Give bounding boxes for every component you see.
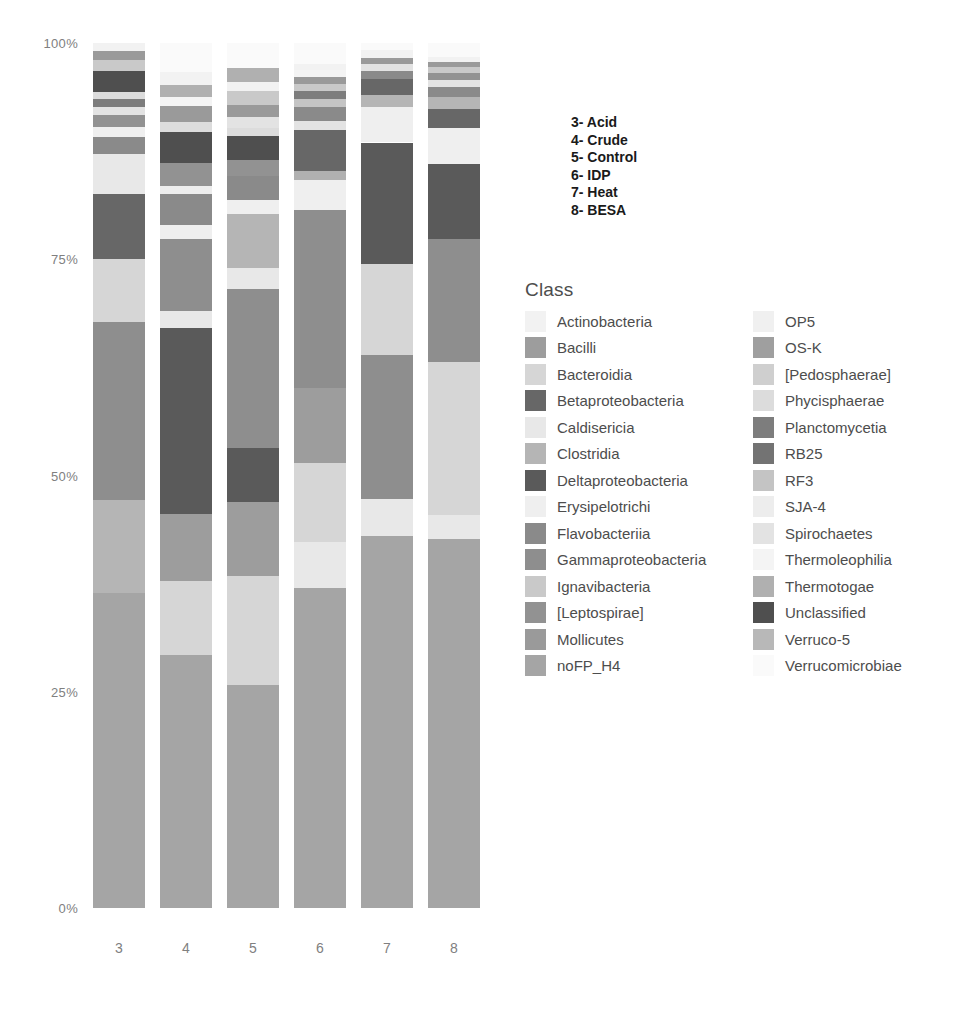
- bar-segment[interactable]: [227, 117, 279, 127]
- bar-segment[interactable]: [160, 514, 212, 581]
- legend-item[interactable]: Phycisphaerae: [753, 388, 963, 415]
- bar-segment[interactable]: [428, 539, 480, 908]
- legend-item[interactable]: Deltaproteobacteria: [525, 467, 753, 494]
- bar-segment[interactable]: [361, 499, 413, 536]
- bar-segment[interactable]: [361, 71, 413, 80]
- legend-item[interactable]: Gammaproteobacteria: [525, 547, 753, 574]
- bar-segment[interactable]: [160, 106, 212, 122]
- bar-segment[interactable]: [227, 289, 279, 448]
- bar-segment[interactable]: [428, 97, 480, 109]
- legend-item[interactable]: Spirochaetes: [753, 520, 963, 547]
- bar-segment[interactable]: [428, 239, 480, 363]
- bar-segment[interactable]: [227, 268, 279, 289]
- bar-segment[interactable]: [294, 210, 346, 388]
- stacked-bar-5[interactable]: [227, 43, 279, 908]
- bar-segment[interactable]: [361, 143, 413, 265]
- bar-segment[interactable]: [227, 160, 279, 176]
- legend-item[interactable]: OP5: [753, 308, 963, 335]
- stacked-bar-8[interactable]: [428, 43, 480, 908]
- bar-segment[interactable]: [227, 105, 279, 117]
- legend-item[interactable]: Actinobacteria: [525, 308, 753, 335]
- bar-segment[interactable]: [428, 67, 480, 73]
- bar-segment[interactable]: [93, 137, 145, 154]
- bar-segment[interactable]: [428, 87, 480, 97]
- bar-segment[interactable]: [160, 328, 212, 513]
- bar-segment[interactable]: [93, 107, 145, 115]
- bar-segment[interactable]: [160, 186, 212, 195]
- bar-segment[interactable]: [294, 388, 346, 462]
- bar-segment[interactable]: [294, 180, 346, 210]
- bar-segment[interactable]: [294, 463, 346, 543]
- bar-segment[interactable]: [160, 132, 212, 163]
- bar-segment[interactable]: [227, 200, 279, 214]
- bar-segment[interactable]: [93, 60, 145, 71]
- legend-item[interactable]: noFP_H4: [525, 653, 753, 680]
- bar-segment[interactable]: [428, 73, 480, 80]
- bar-segment[interactable]: [294, 542, 346, 588]
- legend-item[interactable]: Thermoleophilia: [753, 547, 963, 574]
- bar-segment[interactable]: [428, 362, 480, 515]
- bar-segment[interactable]: [93, 99, 145, 108]
- legend-item[interactable]: Bacilli: [525, 335, 753, 362]
- bar-segment[interactable]: [294, 99, 346, 107]
- bar-segment[interactable]: [428, 515, 480, 538]
- legend-item[interactable]: Thermotogae: [753, 573, 963, 600]
- bar-segment[interactable]: [227, 685, 279, 908]
- legend-item[interactable]: SJA-4: [753, 494, 963, 521]
- legend-item[interactable]: Verruco-5: [753, 626, 963, 653]
- legend-item[interactable]: RB25: [753, 441, 963, 468]
- bar-segment[interactable]: [428, 43, 480, 57]
- bar-segment[interactable]: [227, 136, 279, 159]
- bar-segment[interactable]: [93, 43, 145, 51]
- bar-segment[interactable]: [361, 95, 413, 107]
- legend-item[interactable]: [Pedosphaerae]: [753, 361, 963, 388]
- stacked-bar-7[interactable]: [361, 43, 413, 908]
- legend-item[interactable]: Caldisericia: [525, 414, 753, 441]
- bar-segment[interactable]: [160, 97, 212, 107]
- bar-segment[interactable]: [93, 194, 145, 259]
- legend-item[interactable]: Verrucomicrobiae: [753, 653, 963, 680]
- legend-item[interactable]: [Leptospirae]: [525, 600, 753, 627]
- bar-segment[interactable]: [227, 214, 279, 268]
- bar-segment[interactable]: [160, 239, 212, 312]
- bar-segment[interactable]: [294, 91, 346, 99]
- legend-item[interactable]: Ignavibacteria: [525, 573, 753, 600]
- bar-segment[interactable]: [160, 194, 212, 224]
- bar-segment[interactable]: [160, 655, 212, 908]
- bar-segment[interactable]: [93, 51, 145, 60]
- bar-segment[interactable]: [227, 43, 279, 68]
- bar-segment[interactable]: [428, 109, 480, 128]
- bar-segment[interactable]: [294, 130, 346, 171]
- bar-segment[interactable]: [160, 225, 212, 239]
- bar-segment[interactable]: [93, 500, 145, 593]
- bar-segment[interactable]: [160, 43, 212, 72]
- bar-segment[interactable]: [227, 448, 279, 502]
- stacked-bar-6[interactable]: [294, 43, 346, 908]
- legend-item[interactable]: Planctomycetia: [753, 414, 963, 441]
- legend-item[interactable]: Betaproteobacteria: [525, 388, 753, 415]
- bar-segment[interactable]: [227, 128, 279, 137]
- bar-segment[interactable]: [93, 154, 145, 193]
- bar-segment[interactable]: [160, 311, 212, 328]
- bar-segment[interactable]: [227, 576, 279, 685]
- bar-segment[interactable]: [93, 593, 145, 908]
- bar-segment[interactable]: [428, 80, 480, 87]
- bar-segment[interactable]: [428, 57, 480, 62]
- bar-segment[interactable]: [160, 163, 212, 185]
- stacked-bar-4[interactable]: [160, 43, 212, 908]
- bar-segment[interactable]: [93, 322, 145, 499]
- bar-segment[interactable]: [294, 77, 346, 84]
- bar-segment[interactable]: [361, 536, 413, 908]
- bar-segment[interactable]: [361, 50, 413, 58]
- bar-segment[interactable]: [294, 171, 346, 180]
- legend-item[interactable]: Unclassified: [753, 600, 963, 627]
- legend-item[interactable]: Clostridia: [525, 441, 753, 468]
- bar-segment[interactable]: [227, 82, 279, 92]
- bar-segment[interactable]: [227, 502, 279, 576]
- legend-item[interactable]: Mollicutes: [525, 626, 753, 653]
- bar-segment[interactable]: [160, 85, 212, 97]
- legend-item[interactable]: Flavobacteriia: [525, 520, 753, 547]
- bar-segment[interactable]: [294, 84, 346, 92]
- bar-segment[interactable]: [428, 128, 480, 164]
- bar-segment[interactable]: [361, 264, 413, 355]
